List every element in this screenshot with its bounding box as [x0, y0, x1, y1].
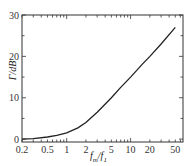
x-tick-label: 1	[64, 144, 69, 155]
x-axis-label: fm/f1	[90, 150, 107, 164]
x-tick-label: 20	[145, 144, 155, 155]
x-tick-label: 0.2	[16, 144, 29, 155]
plot-frame	[22, 15, 183, 142]
data-line	[22, 27, 175, 139]
x-label-sub-1: 1	[103, 156, 107, 164]
y-tick-label: 30	[9, 10, 19, 21]
chart: 0.20.51251020500102030	[0, 0, 186, 166]
x-tick-label: 10	[126, 144, 136, 155]
x-tick-label: 2	[83, 144, 88, 155]
x-tick-label: 5	[109, 144, 114, 155]
y-tick-label: 10	[9, 92, 19, 103]
x-tick-label: 0.5	[41, 144, 54, 155]
y-axis-label: Γ/dB	[7, 51, 18, 91]
y-tick-label: 0	[14, 134, 19, 145]
x-tick-label: 50	[170, 144, 180, 155]
